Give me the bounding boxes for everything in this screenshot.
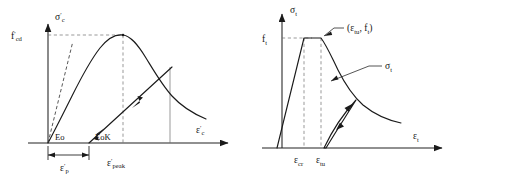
compression-x-axis-label: ε′c [196, 124, 204, 136]
compression-envelope-curve [48, 35, 206, 143]
tension-sigma-callout-label: σt [385, 60, 392, 73]
compression-annotation-Eo: Eo [55, 132, 65, 142]
tension-peak-callout-label: (εtu, ft) [347, 22, 372, 35]
tension-y-axis-label: σt [290, 4, 297, 17]
tension-sigma-callout-arrowhead [331, 76, 339, 81]
compression-y-axis-label: σ′c [55, 11, 65, 23]
tension-xtick-epstu: εtu [316, 154, 326, 167]
compression-eps-p-arrow-right [82, 153, 89, 158]
compression-peak-marker [122, 34, 125, 37]
tension-chart: σt εt ft (εtu, ft) σt εcr εtu [256, 0, 513, 175]
tension-xtick-epscr: εcr [294, 154, 304, 167]
compression-chart: σ′c ε′c f′cd Eo EoK ε′p [0, 0, 256, 175]
compression-xtick-eps-p: ε′p [60, 162, 69, 174]
compression-ytick-fcd: f′cd [11, 30, 23, 42]
tension-ytick-ft: ft [262, 33, 267, 46]
compression-annotation-EoK: EoK [95, 132, 112, 142]
tension-envelope-curve [277, 38, 401, 148]
compression-xtick-eps-peak: ε′peak [107, 157, 126, 169]
stress-strain-figure: σ′c ε′c f′cd Eo EoK ε′p [0, 0, 513, 175]
tension-x-axis-label: εt [413, 130, 419, 143]
compression-eps-p-arrow-left [48, 153, 55, 158]
compression-initial-tangent [48, 43, 73, 143]
